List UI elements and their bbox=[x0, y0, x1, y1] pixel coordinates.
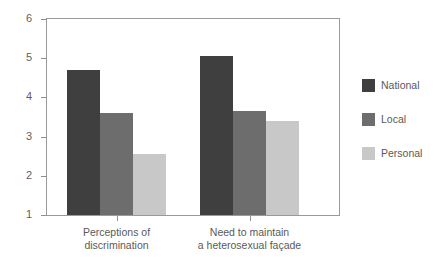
y-tick-label: 3 bbox=[8, 131, 32, 142]
y-tick-label: 5 bbox=[8, 52, 32, 63]
bar-personal-1 bbox=[266, 121, 299, 215]
chart-legend: NationalLocalPersonal bbox=[360, 78, 443, 180]
bar-national-0 bbox=[67, 70, 100, 215]
legend-label: Personal bbox=[381, 147, 422, 160]
legend-label: National bbox=[381, 79, 420, 92]
y-tick-mark bbox=[41, 215, 47, 216]
legend-item-personal[interactable]: Personal bbox=[360, 146, 443, 180]
y-tick-label: 4 bbox=[8, 91, 32, 102]
legend-swatch-icon bbox=[362, 113, 375, 126]
bar-national-1 bbox=[200, 56, 233, 215]
plot-area bbox=[47, 19, 339, 215]
legend-swatch-icon bbox=[362, 79, 375, 92]
x-group-label: Need to maintaina heterosexual façade bbox=[170, 226, 330, 252]
x-group-label-line: Need to maintain bbox=[170, 226, 330, 239]
bar-local-1 bbox=[233, 111, 266, 215]
legend-item-local[interactable]: Local bbox=[360, 112, 443, 146]
y-tick-label: 1 bbox=[8, 209, 32, 220]
legend-item-national[interactable]: National bbox=[360, 78, 443, 112]
legend-swatch-icon bbox=[362, 147, 375, 160]
bar-chart: 123456 Perceptions ofdiscriminationNeed … bbox=[0, 0, 443, 268]
bar-personal-0 bbox=[133, 154, 166, 215]
legend-label: Local bbox=[381, 113, 406, 126]
y-tick-label: 6 bbox=[8, 13, 32, 24]
bar-local-0 bbox=[100, 113, 133, 215]
x-group-label-line: a heterosexual façade bbox=[170, 239, 330, 252]
y-tick-label: 2 bbox=[8, 170, 32, 181]
x-tick-mark bbox=[250, 216, 251, 221]
x-tick-mark bbox=[117, 216, 118, 221]
